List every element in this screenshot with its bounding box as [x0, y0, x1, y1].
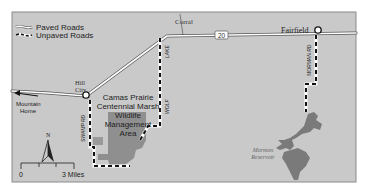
paved-road-legend-icon [16, 26, 32, 28]
scale-start-label: 0 [19, 171, 23, 178]
label-hill: Hill [75, 79, 85, 86]
map-canvas: 20 Paved Roads Unpaved Roads Corral Fair… [0, 0, 367, 192]
label-wolf: WOLF [164, 99, 170, 114]
label-city: City [75, 86, 87, 93]
label-mormon: Mormon [252, 147, 274, 153]
area-label-line2: Centennial Marsh [97, 102, 160, 111]
label-corral: Corral [175, 18, 193, 26]
unpaved-road-legend-icon [16, 34, 32, 36]
label-swamp-rd: SWAMP RD [80, 114, 86, 142]
area-label-line1: Camas Prairie [103, 93, 154, 102]
highway-20-shield-icon: 20 [215, 31, 228, 39]
legend-unpaved-label: Unpaved Roads [36, 31, 93, 40]
fairfield-marker-icon [315, 27, 321, 33]
label-mormon-rd: MORMAN RD [306, 44, 312, 76]
label-home: Home [20, 108, 37, 114]
area-label-line4: Management [105, 120, 152, 129]
north-label: N [46, 132, 51, 138]
label-reservoir: Reservoir [250, 154, 275, 160]
area-label-line5: Area [120, 129, 137, 138]
label-lake: LAKE [164, 45, 170, 58]
highway-number: 20 [218, 32, 226, 39]
area-label-line3: Wildlife [115, 111, 141, 120]
label-fairfield: Fairfield [281, 26, 309, 35]
label-mountain: Mountain [16, 101, 41, 107]
scale-end-label: 3 Miles [62, 171, 85, 178]
